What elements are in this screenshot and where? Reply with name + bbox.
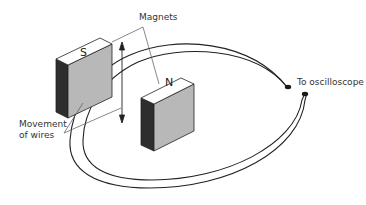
label-magnets: Magnets — [139, 12, 178, 22]
movement-arrow-icon — [120, 42, 125, 123]
label-movement-line2: of wires — [19, 130, 54, 140]
magnet-north: N — [141, 76, 194, 151]
electromagnetic-induction-diagram: S N Magnets Movement of wires To oscillo… — [0, 0, 366, 205]
magnet-south: S — [56, 38, 112, 118]
label-movement-line1: Movement — [19, 119, 67, 129]
label-oscilloscope: To oscilloscope — [296, 77, 364, 87]
pole-label-n: N — [165, 76, 173, 89]
pole-label-s: S — [80, 46, 87, 59]
magnets-leader-lines — [112, 27, 159, 84]
